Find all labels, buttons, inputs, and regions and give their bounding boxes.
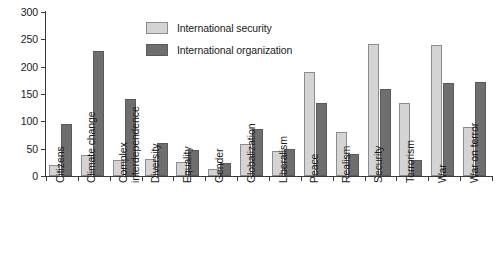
legend-label-series-2: International organization (177, 44, 292, 56)
x-axis-category-label: Equality (182, 146, 194, 183)
legend-item-international-organization: International organization (146, 40, 292, 59)
y-axis-tick-label: 50 (2, 144, 38, 154)
x-axis-category-label: War on terror (469, 123, 481, 183)
bar-group (428, 12, 460, 176)
x-axis-category-label-line: interdependence (130, 106, 142, 183)
x-axis-category-label: Terrorism (405, 140, 417, 183)
x-axis-category-label: Security (373, 146, 385, 183)
y-axis-tick-label: 300 (2, 7, 38, 17)
y-axis-tick-label: 0 (2, 171, 38, 181)
x-axis-category-label: Globalization (246, 124, 258, 183)
x-axis-tick-mark (173, 177, 174, 181)
x-axis-tick-mark (142, 177, 143, 181)
chart-legend: International security International org… (146, 18, 292, 62)
x-axis-category-label: Realism (341, 146, 353, 183)
y-axis-tick-label: 100 (2, 116, 38, 126)
x-axis-category-label: Complexinterdependence (118, 106, 141, 183)
bar-series-1 (431, 45, 442, 176)
x-axis-tick-mark (428, 177, 429, 181)
bar-group (301, 12, 333, 176)
x-axis-tick-mark (110, 177, 111, 181)
legend-label-series-1: International security (177, 22, 272, 34)
y-axis-tick-label: 150 (2, 89, 38, 99)
y-axis-tick-label: 200 (2, 62, 38, 72)
x-axis-category-label: Liberalism (278, 136, 290, 183)
legend-swatch-icon-series-2 (146, 44, 168, 56)
x-axis-tick-mark (492, 177, 493, 181)
x-axis-tick-mark (78, 177, 79, 181)
x-axis-tick-mark (396, 177, 397, 181)
x-axis-category-label-line: Complex (118, 106, 130, 183)
x-axis-category-label: Climate change (87, 111, 99, 183)
bar-chart: 050100150200250300 CitizensClimate chang… (0, 0, 500, 268)
legend-swatch-icon-series-1 (146, 22, 168, 34)
x-axis-category-label: Citizens (55, 146, 67, 183)
x-axis-tick-mark (333, 177, 334, 181)
x-axis-category-label: Diversity (150, 144, 162, 183)
x-axis-tick-mark (460, 177, 461, 181)
x-axis-tick-mark (269, 177, 270, 181)
x-axis-tick-mark (205, 177, 206, 181)
x-axis-tick-mark (237, 177, 238, 181)
bar-series-2 (443, 83, 454, 176)
x-axis-tick-mark (46, 177, 47, 181)
x-axis-tick-mark (365, 177, 366, 181)
y-axis-tick-label: 250 (2, 34, 38, 44)
x-axis-category-label: Gender (214, 149, 226, 183)
x-axis-category-label: Peace (310, 154, 322, 183)
x-axis-category-label: War (437, 164, 449, 183)
legend-item-international-security: International security (146, 18, 292, 37)
x-axis-tick-mark (301, 177, 302, 181)
